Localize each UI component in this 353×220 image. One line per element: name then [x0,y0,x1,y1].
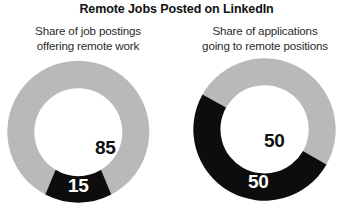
chart-subtitle-right: Share of applications going to remote po… [177,24,353,53]
chart-subtitle-right-line2: going to remote positions [177,39,353,54]
donut-chart-applications: 50 50 [177,53,353,219]
chart-panel-applications: Share of applications going to remote po… [177,24,353,219]
donut-label-left-85: 85 [95,138,115,157]
chart-subtitle-left: Share of job postings offering remote wo… [0,24,176,53]
donut-label-left-15: 15 [68,176,88,195]
chart-title: Remote Jobs Posted on LinkedIn [0,2,353,16]
chart-subtitle-left-line1: Share of job postings [0,24,176,39]
chart-subtitle-right-line1: Share of applications [177,24,353,39]
chart-panel-job-postings: Share of job postings offering remote wo… [0,24,176,219]
chart-subtitle-left-line2: offering remote work [0,39,176,54]
donut-label-right-50-gray: 50 [264,131,284,150]
chart-figure: Remote Jobs Posted on LinkedIn Share of … [0,0,353,220]
donut-chart-job-postings: 85 15 [0,53,176,219]
donut-label-right-50-black: 50 [248,172,268,191]
